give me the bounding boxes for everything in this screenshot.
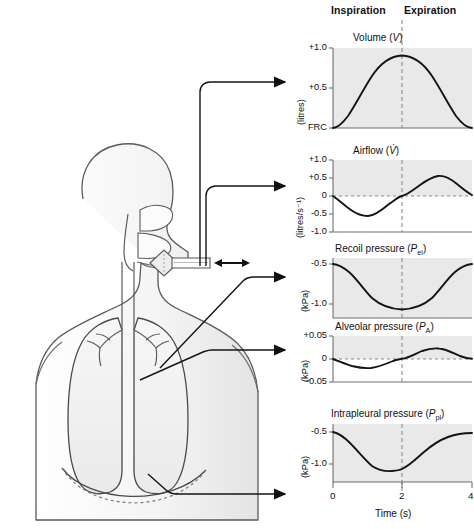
panel-title-alveolar: Alveolar pressure (PA) [335, 321, 434, 335]
title-volume-text: Volume ( [353, 32, 392, 43]
ytick-recoil-0: -0.5 [283, 258, 327, 268]
title-airflow-symbol: V̇ [389, 145, 396, 156]
title-recoil-end: ) [423, 243, 426, 254]
panel-title-volume: Volume (V) [353, 32, 402, 43]
ytick-alveolar-2: -0.05 [277, 376, 327, 386]
ytick-intrapleural-1: -1.0 [283, 458, 327, 468]
ytick-recoil-1: -1.0 [283, 298, 327, 308]
ytick-volume-1: +0.5 [283, 82, 327, 92]
title-intrapleural-text: Intrapleural pressure ( [331, 408, 429, 419]
respiratory-cycle-figure: Inspiration Expiration [0, 0, 474, 529]
ytick-alveolar-1: 0 [277, 353, 327, 363]
title-airflow-text: Airflow ( [353, 145, 389, 156]
ytick-alveolar-0: +0.05 [277, 330, 327, 340]
title-alveolar-symbol: P [419, 321, 426, 332]
title-alveolar-end: ) [430, 321, 433, 332]
ytick-airflow-2: 0 [283, 190, 327, 200]
ytick-intrapleural-0: -0.5 [283, 426, 327, 436]
title-airflow-end: ) [396, 145, 399, 156]
panel-intrapleural [329, 424, 472, 493]
title-alveolar-text: Alveolar pressure ( [335, 321, 419, 332]
panel-airflow [329, 160, 472, 232]
xtick-1: 2 [399, 490, 404, 501]
panel-title-recoil: Recoil pressure (Pel) [335, 243, 426, 257]
ytick-airflow-3: -0.5 [283, 208, 327, 218]
title-recoil-text: Recoil pressure ( [335, 243, 411, 254]
ytick-airflow-0: +1.0 [283, 154, 327, 164]
plot-panels [0, 0, 474, 529]
xtick-0: 0 [330, 490, 335, 501]
panel-title-intrapleural: Intrapleural pressure (Ppl) [331, 408, 444, 422]
ytick-airflow-4: -1.0 [283, 226, 327, 236]
title-volume-end: ) [399, 32, 402, 43]
panel-title-airflow: Airflow (V̇) [353, 145, 399, 156]
panel-alveolar [329, 336, 472, 382]
panel-recoil [329, 258, 472, 318]
title-intrapleural-end: ) [441, 408, 444, 419]
xtick-2: 4 [468, 490, 473, 501]
ytick-volume-0: +1.0 [283, 42, 327, 52]
ytick-volume-2: FRC [283, 122, 327, 132]
ytick-airflow-1: +0.5 [283, 172, 327, 182]
title-intrapleural-symbol: P [429, 408, 436, 419]
xaxis-label: Time (s) [375, 508, 411, 519]
